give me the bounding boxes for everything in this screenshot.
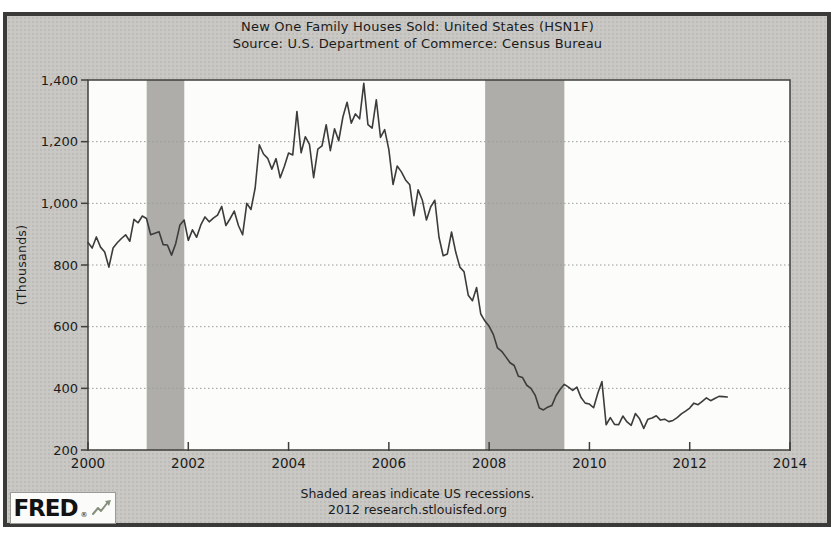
y-tick-label: 1,400 [41, 73, 78, 88]
y-axis-title: (Thousands) [14, 225, 29, 306]
x-tick-label: 2012 [673, 455, 707, 471]
recession-note: Shaded areas indicate US recessions. [0, 486, 835, 501]
y-tick-label: 1,200 [41, 134, 78, 149]
chart-canvas: 1,4001,2001,0008006004002002000200220042… [0, 0, 835, 536]
x-tick-label: 2000 [71, 455, 105, 471]
fred-chart-page: New One Family Houses Sold: United State… [0, 0, 835, 536]
y-tick-label: 400 [53, 381, 78, 396]
x-tick-label: 2006 [372, 455, 406, 471]
fred-logo-chart-icon [91, 499, 113, 517]
x-tick-label: 2010 [572, 455, 606, 471]
y-tick-label: 800 [53, 258, 78, 273]
x-tick-label: 2004 [271, 455, 305, 471]
x-tick-label: 2008 [472, 455, 506, 471]
fred-logo-registered-mark: ® [81, 511, 88, 519]
y-tick-label: 1,000 [41, 196, 78, 211]
y-tick-label: 600 [53, 319, 78, 334]
attribution-text: 2012 research.stlouisfed.org [0, 502, 835, 517]
x-tick-label: 2002 [171, 455, 205, 471]
x-tick-label: 2014 [773, 455, 807, 471]
fred-logo-text: FRED [13, 497, 77, 520]
fred-logo: FRED ® [10, 492, 116, 524]
